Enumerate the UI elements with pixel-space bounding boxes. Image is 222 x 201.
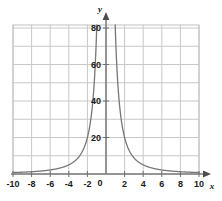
x-axis-arrowhead [203,171,211,178]
x-axis-tick-labels: -10-8-6-4-2246810 [6,179,204,189]
y-tick-label: 80 [91,23,101,33]
x-axis-label: x [209,181,215,191]
x-tick-label: -2 [83,179,91,189]
x-tick-label: -8 [28,179,36,189]
x-tick-label: -6 [46,179,54,189]
x-tick-label: 8 [178,179,183,189]
x-tick-label: 2 [122,179,127,189]
y-tick-label: 20 [91,133,101,143]
x-tick-label: 6 [159,179,164,189]
graph-figure: -10-8-6-4-2246810 20406080 0 x y [0,0,222,201]
y-axis-label: y [97,4,103,14]
x-tick-label: 10 [194,179,204,189]
coordinate-plane: -10-8-6-4-2246810 20406080 0 x y [0,0,222,201]
x-tick-label: -4 [65,179,73,189]
y-tick-label: 40 [91,96,101,106]
y-axis-arrowhead [103,12,110,20]
origin-label: 0 [97,178,102,188]
y-tick-label: 60 [91,60,101,70]
x-tick-label: 4 [141,179,146,189]
x-tick-label: -10 [6,179,19,189]
